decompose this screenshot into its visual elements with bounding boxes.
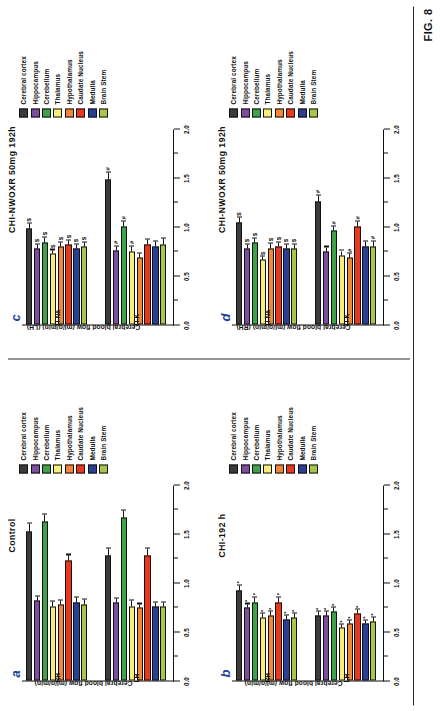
- legend: Cerebral cortexHippocampusCerebellumThal…: [228, 363, 319, 473]
- axis-tick: [384, 128, 390, 129]
- significance-marker: *: [260, 609, 266, 611]
- bar: [315, 615, 321, 680]
- legend-item-label: Brain Stem: [100, 69, 107, 104]
- error-bar-cap: [237, 216, 242, 217]
- error-bar-cap: [237, 584, 242, 585]
- legend-item: Thalamus: [52, 363, 63, 473]
- legend-swatch-icon: [286, 108, 295, 117]
- legend-item-label: Cerebral cortex: [20, 412, 27, 460]
- error-bar: [108, 172, 109, 179]
- error-bar: [131, 600, 132, 606]
- significance-marker: $: [81, 236, 87, 239]
- error-bar: [52, 601, 53, 606]
- significance-marker: $: [50, 244, 56, 247]
- legend-item-label: Medulla: [89, 436, 96, 461]
- axis-tick-minor: [384, 251, 388, 252]
- plot-area: 0.00.51.01.52.0********RH********LH: [232, 485, 400, 681]
- axis-tick: [384, 582, 390, 583]
- axis-tick-label: 0.5: [393, 628, 400, 637]
- error-bar: [278, 597, 279, 602]
- legend-swatch-icon: [76, 464, 85, 473]
- legend-item: Hippocampus: [239, 363, 250, 473]
- axis-tick-label: 1.0: [393, 223, 400, 232]
- error-bar-cap: [355, 608, 360, 609]
- significance-marker: *: [370, 613, 376, 615]
- significance-marker: #: [113, 240, 119, 243]
- legend-swatch-icon: [19, 464, 28, 473]
- significance-marker: $: [276, 236, 282, 239]
- error-bar-cap: [137, 252, 142, 253]
- panel-title: Control: [7, 359, 17, 711]
- axis-tick-label: 1.5: [183, 530, 190, 539]
- error-bar-cap: [121, 220, 126, 221]
- error-bar: [333, 226, 334, 230]
- legend-swatch-icon: [42, 464, 51, 473]
- legend-item: Thalamus: [262, 363, 273, 473]
- error-bar-cap: [66, 553, 71, 554]
- axis-tick: [174, 631, 180, 632]
- bar: [144, 555, 150, 680]
- axis-tick: [384, 177, 390, 178]
- error-bar: [123, 221, 124, 226]
- significance-marker: *: [276, 592, 282, 594]
- bar: [137, 607, 143, 680]
- error-bar: [278, 242, 279, 246]
- significance-marker: $: [252, 232, 258, 235]
- axis-tick-minor: [174, 656, 178, 657]
- error-bar-cap: [50, 248, 55, 249]
- bar: [244, 607, 250, 680]
- bar: [34, 600, 40, 680]
- legend-item-label: Brain Stem: [100, 425, 107, 460]
- error-bar-cap: [276, 596, 281, 597]
- bar: [323, 615, 329, 680]
- error-bar-cap: [252, 237, 257, 238]
- bar: [58, 604, 64, 680]
- error-bar-cap: [276, 241, 281, 242]
- error-bar-cap: [66, 239, 71, 240]
- significance-marker: #: [347, 248, 353, 251]
- significance-marker: $: [283, 238, 289, 241]
- error-bar: [147, 239, 148, 244]
- legend-item-label: Cerebellum: [253, 68, 260, 104]
- bar-group-container: $$$$$$$$TI-Na#####TI-K: [232, 129, 384, 324]
- bar: [81, 604, 87, 680]
- legend-item-label: Thalamus: [54, 73, 61, 104]
- legend-swatch-icon: [275, 464, 284, 473]
- error-bar: [254, 238, 255, 242]
- axis-tick: [384, 484, 390, 485]
- bar: [244, 248, 250, 324]
- bar: [236, 590, 242, 680]
- error-bar: [44, 237, 45, 242]
- error-bar: [139, 253, 140, 257]
- significance-marker: $: [260, 251, 266, 254]
- error-bar: [294, 613, 295, 617]
- legend-swatch-icon: [65, 464, 74, 473]
- bar: [160, 244, 166, 324]
- error-bar-cap: [58, 241, 63, 242]
- axis-tick-minor: [384, 300, 388, 301]
- error-bar-cap: [292, 243, 297, 244]
- axis-tick: [384, 226, 390, 227]
- legend-swatch-icon: [263, 108, 272, 117]
- error-bar: [341, 251, 342, 256]
- axis-tick-label: 0.0: [183, 677, 190, 686]
- error-bar-cap: [27, 222, 32, 223]
- legend-item: Hippocampus: [29, 363, 40, 473]
- axis-tick-label: 0.5: [183, 628, 190, 637]
- error-bar-cap: [316, 194, 321, 195]
- error-bar: [131, 246, 132, 252]
- legend-swatch-icon: [88, 108, 97, 117]
- legend: Cerebral cortexHippocampusCerebellumThal…: [228, 7, 319, 117]
- error-bar-cap: [35, 243, 40, 244]
- significance-marker: $: [236, 212, 242, 215]
- bar: [105, 179, 111, 324]
- bar-group-container: RHLH: [22, 485, 174, 680]
- axis-tick-minor: [384, 153, 388, 154]
- legend-swatch-icon: [53, 108, 62, 117]
- axis-tick-minor: [174, 251, 178, 252]
- error-bar-cap: [268, 242, 273, 243]
- error-bar-cap: [331, 225, 336, 226]
- error-bar-cap: [268, 610, 273, 611]
- error-bar-cap: [82, 598, 87, 599]
- legend-item-label: Thalamus: [54, 429, 61, 460]
